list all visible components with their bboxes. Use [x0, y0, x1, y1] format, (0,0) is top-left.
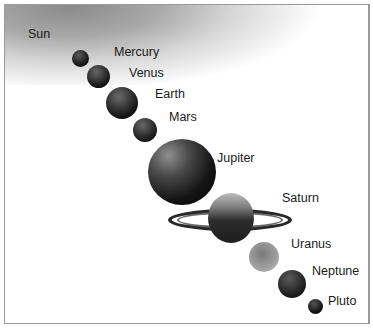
label-uranus: Uranus [291, 237, 331, 251]
diagram-frame: Sun Mercury Venus Earth Mars Jupiter Sat… [4, 4, 370, 324]
planet-earth [106, 87, 138, 119]
label-pluto: Pluto [328, 294, 357, 308]
planet-mercury [72, 50, 89, 67]
planet-mars [133, 118, 157, 142]
label-mars: Mars [169, 110, 197, 124]
planet-pluto [308, 299, 323, 314]
label-saturn: Saturn [282, 191, 319, 205]
planet-venus [87, 65, 110, 88]
label-mercury: Mercury [114, 45, 159, 59]
sun-glow [4, 4, 370, 85]
label-venus: Venus [129, 66, 164, 80]
label-jupiter: Jupiter [217, 151, 255, 165]
planet-jupiter [148, 139, 216, 205]
label-neptune: Neptune [312, 264, 359, 278]
planet-uranus [249, 242, 279, 272]
planet-neptune [278, 270, 306, 298]
planet-saturn [208, 193, 254, 243]
label-sun: Sun [28, 27, 50, 41]
label-earth: Earth [155, 87, 185, 101]
